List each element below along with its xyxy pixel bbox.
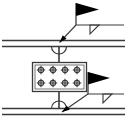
splice-plate — [33, 63, 87, 92]
field-weld-flag-icon — [76, 3, 99, 16]
field-weld-flag-icon — [88, 72, 110, 85]
upper-member — [2, 41, 125, 47]
connection-detail-drawing: Bolted Splice Connection Detail — [0, 0, 127, 123]
fillet-weld-triangle-icon — [103, 94, 112, 103]
fillet-weld-triangle-icon — [90, 25, 99, 34]
drawing-canvas: Bolted Splice Connection Detail — [0, 0, 127, 123]
upper-weld-callout[interactable] — [60, 3, 125, 43]
